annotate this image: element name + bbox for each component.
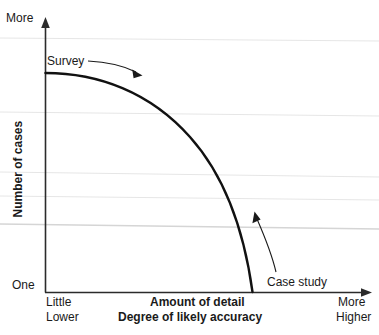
tradeoff-curve [46, 73, 253, 292]
y-axis-top-tick-label: More [6, 12, 33, 25]
chart-figure: More One Number of cases Survey Case stu… [0, 0, 379, 335]
x-axis-title-primary: Amount of detail [150, 296, 245, 309]
annotation-label-survey: Survey [47, 55, 84, 68]
x-axis-left-tick-label-primary: Little [46, 296, 71, 309]
scan-artifact-lines-strong [0, 224, 379, 229]
x-axis-left-tick-label-secondary: Lower [46, 311, 79, 324]
case-study-annotation-arrow [252, 212, 276, 273]
y-axis-bottom-tick-label: One [12, 279, 35, 292]
x-axis-right-tick-label-primary: More [338, 296, 365, 309]
y-axis-arrowhead [41, 17, 50, 28]
x-axis-right-tick-label-secondary: Higher [336, 311, 371, 324]
annotation-label-case-study: Case study [267, 276, 327, 289]
y-axis-title: Number of cases [12, 122, 25, 218]
survey-annotation-arrow [88, 61, 143, 78]
x-axis-title-secondary: Degree of likely accuracy [118, 311, 262, 324]
survey-arrowhead [132, 70, 142, 79]
case-study-arrowhead [252, 212, 260, 224]
